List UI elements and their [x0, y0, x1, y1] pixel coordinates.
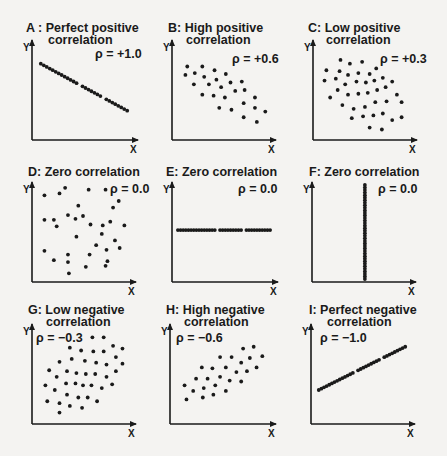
data-point	[368, 126, 372, 130]
data-point	[364, 81, 368, 85]
data-point	[45, 399, 49, 403]
data-point	[328, 96, 332, 100]
data-point	[242, 115, 246, 119]
data-point	[212, 94, 216, 98]
data-point	[114, 355, 118, 359]
data-point	[194, 377, 198, 381]
data-point	[79, 349, 83, 353]
data-point	[58, 192, 62, 196]
y-axis-label: Y	[163, 184, 170, 195]
x-axis-label: X	[128, 286, 135, 297]
data-point	[229, 81, 233, 85]
data-point	[390, 118, 394, 122]
correlation-coefficient: ρ = 0.0	[110, 182, 149, 196]
data-point	[94, 361, 98, 365]
data-point	[373, 100, 377, 104]
data-point	[100, 386, 104, 390]
data-point	[121, 362, 125, 366]
x-axis-arrow-icon	[270, 421, 277, 427]
data-point	[200, 93, 204, 97]
x-axis-label: X	[268, 428, 275, 439]
panel-title-line: correlation	[28, 316, 125, 328]
x-axis-label: X	[409, 144, 416, 155]
data-point	[228, 379, 232, 383]
data-point	[239, 228, 243, 232]
data-point	[66, 260, 70, 264]
data-point	[260, 354, 264, 358]
data-point	[91, 350, 95, 354]
data-point	[80, 406, 84, 410]
panel-title-line: correlation	[309, 316, 417, 328]
data-point	[84, 265, 88, 269]
panel-title: G: Low negativecorrelation	[28, 304, 125, 328]
data-point	[350, 116, 354, 120]
data-point	[192, 82, 196, 86]
data-point	[243, 88, 247, 92]
data-point	[52, 218, 56, 222]
x-axis-arrow-icon	[272, 279, 279, 285]
data-point	[110, 382, 114, 386]
data-point	[241, 347, 245, 351]
data-point	[43, 193, 47, 197]
data-point	[355, 80, 359, 84]
correlation-coefficient: ρ = 0.0	[238, 182, 277, 196]
data-point	[255, 366, 259, 370]
panel-title: I: Perfect negativecorrelation	[309, 304, 417, 328]
data-point	[253, 106, 257, 110]
data-point	[242, 101, 246, 105]
data-point	[334, 77, 338, 81]
data-point	[351, 371, 355, 375]
data-point	[240, 80, 244, 84]
y-axis-label: Y	[303, 184, 310, 195]
data-point	[323, 79, 327, 83]
data-point	[363, 183, 367, 187]
data-point	[361, 114, 365, 118]
data-point	[95, 399, 99, 403]
data-point	[224, 389, 228, 393]
data-point	[352, 107, 356, 111]
correlation-coefficient: ρ = +0.6	[232, 52, 279, 66]
data-point	[253, 96, 257, 100]
data-point	[184, 73, 188, 77]
data-point	[113, 239, 117, 243]
x-axis-label: X	[407, 428, 414, 439]
data-point	[372, 79, 376, 83]
data-point	[224, 72, 228, 76]
data-point	[395, 93, 399, 97]
data-point	[400, 100, 404, 104]
data-point	[104, 188, 108, 192]
data-point	[53, 388, 57, 392]
data-point	[325, 68, 329, 72]
data-point	[230, 108, 234, 112]
data-point	[106, 259, 110, 263]
panel-title: A : Perfect positivecorrelation	[26, 22, 139, 46]
data-point	[75, 235, 79, 239]
data-point	[356, 92, 360, 96]
data-point	[185, 397, 189, 401]
data-point	[87, 188, 91, 192]
y-axis-label: Y	[304, 42, 311, 53]
data-point	[233, 89, 237, 93]
data-point	[117, 199, 121, 203]
y-axis-label: Y	[23, 184, 30, 195]
data-point	[343, 82, 347, 86]
panel-title-line: D: Zero correlation	[28, 166, 140, 178]
correlation-coefficient: ρ = +0.3	[380, 52, 427, 66]
data-point	[81, 214, 85, 218]
data-point	[52, 258, 56, 262]
data-point	[65, 369, 69, 373]
data-point	[202, 386, 206, 390]
data-point	[219, 85, 223, 89]
data-point	[215, 78, 219, 82]
data-point	[66, 253, 70, 257]
data-point	[263, 110, 267, 114]
plots-canvas	[0, 0, 447, 456]
panel-title: H: High negativecorrelation	[166, 304, 265, 328]
data-point	[380, 128, 384, 132]
data-point	[100, 232, 104, 236]
correlation-coefficient: ρ = +1.0	[95, 47, 142, 61]
x-axis-arrow-icon	[130, 421, 137, 427]
y-axis-label: Y	[161, 326, 168, 337]
data-point	[217, 106, 221, 110]
data-point	[114, 369, 118, 373]
